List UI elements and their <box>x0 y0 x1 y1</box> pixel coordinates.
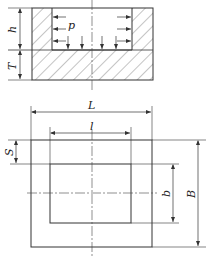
label-p: p <box>68 19 75 32</box>
label-h: h <box>6 26 19 33</box>
dimension-h: h <box>6 9 20 49</box>
dimension-l: l <box>51 120 130 133</box>
label-T: T <box>6 61 19 70</box>
label-B: B <box>185 190 198 199</box>
dimension-B: B <box>185 141 198 246</box>
dimension-T: T <box>6 51 20 79</box>
plan-outline <box>31 140 152 247</box>
label-S: S <box>3 148 16 156</box>
dimension-L: L <box>32 99 151 112</box>
plan-view: L l S b B <box>3 99 206 256</box>
section-view: p h T <box>6 0 153 92</box>
label-b: b <box>160 190 173 197</box>
hatched-wall <box>32 8 153 80</box>
extension-lines <box>8 106 206 247</box>
engineering-diagram: p h T <box>0 0 212 266</box>
dimension-b: b <box>160 165 173 222</box>
dimension-S: S <box>3 141 16 163</box>
label-l: l <box>90 120 94 133</box>
label-L: L <box>87 99 95 112</box>
